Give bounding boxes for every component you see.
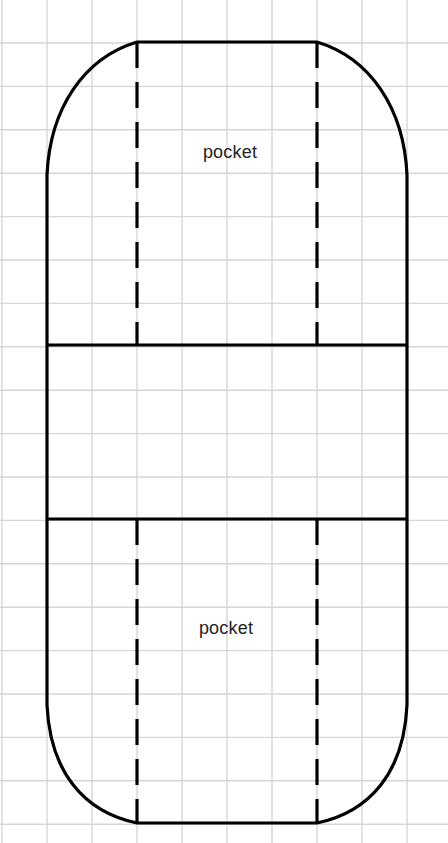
top-pocket-label: pocket xyxy=(203,142,257,163)
pattern-diagram xyxy=(0,0,448,843)
bottom-pocket-label: pocket xyxy=(199,618,253,639)
graph-paper-grid xyxy=(0,0,448,843)
